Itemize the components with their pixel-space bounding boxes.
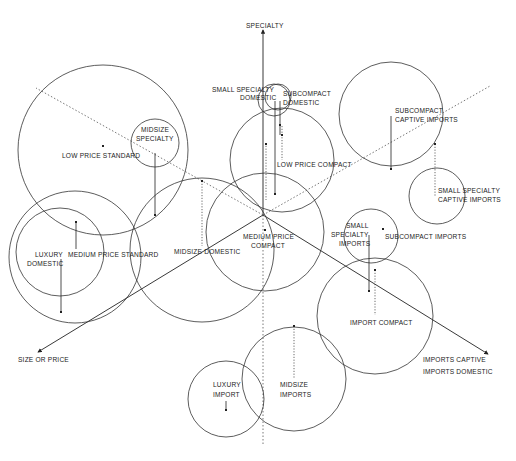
marker-low-price-standard-2: [265, 143, 267, 145]
circle-import-compact: [317, 258, 433, 374]
label-small-specialty-imports-2: SPECIALTY: [331, 231, 369, 238]
label-luxury-import-1: LUXURY: [213, 381, 241, 388]
marker-midsize-specialty: [154, 214, 156, 216]
label-small-specialty-imports-1: SMALL: [346, 222, 369, 229]
axis-label-imports-domestic: IMPORTS DOMESTIC: [423, 368, 493, 375]
axis-label-imports-captive: IMPORTS CAPTIVE: [423, 356, 486, 363]
label-luxury-import-2: IMPORT: [213, 391, 240, 398]
marker-luxury-domestic: [60, 311, 62, 313]
marker-midsize-domestic: [201, 180, 203, 182]
segment-map-diagram: SPECIALTY SIZE OR PRICE IMPORTS CAPTIVE …: [0, 0, 516, 461]
label-small-specialty-imports-3: IMPORTS: [339, 240, 371, 247]
label-low-price-standard: LOW PRICE STANDARD: [62, 152, 140, 159]
axis-label-specialty: SPECIALTY: [246, 22, 284, 29]
label-luxury-domestic-2: DOMESTIC: [27, 260, 63, 267]
label-midsize-specialty-1: MIDSIZE: [141, 126, 170, 133]
marker-low-price-compact: [281, 134, 283, 136]
circle-low-price-standard: [18, 65, 188, 235]
label-midsize-imports-2: IMPORTS: [280, 391, 312, 398]
axis-label-size-or-price: SIZE OR PRICE: [18, 356, 69, 363]
marker-small-specialty-captive-imports: [434, 143, 436, 145]
label-small-specialty-domestic-2: DOMESTIC: [240, 94, 276, 101]
label-small-specialty-captive-imports-2: CAPTIVE IMPORTS: [438, 196, 501, 203]
marker-medium-price-standard: [75, 221, 77, 223]
label-medium-price-standard: MEDIUM PRICE STANDARD: [68, 251, 159, 258]
marker-subcompact-imports: [382, 228, 384, 230]
circle-midsize-imports: [242, 327, 346, 431]
marker-import-compact: [374, 269, 376, 271]
marker-small-specialty-domestic: [274, 193, 276, 195]
label-subcompact-domestic-2: DOMESTIC: [283, 99, 319, 106]
label-small-specialty-domestic-1: SMALL SPECIALTY: [212, 86, 274, 93]
label-midsize-specialty-2: SPECIALTY: [136, 135, 174, 142]
circle-luxury-import: [188, 361, 264, 437]
marker-luxury-import: [225, 409, 227, 411]
marker-low-price-standard: [102, 145, 104, 147]
marker-medium-price-compact: [264, 229, 266, 231]
size-or-price-axis: [38, 215, 263, 352]
marker-subcompact-domestic: [279, 124, 281, 126]
label-low-price-compact: LOW PRICE COMPACT: [277, 161, 352, 168]
label-luxury-domestic-1: LUXURY: [35, 251, 63, 258]
label-medium-price-compact-1: MEDIUM PRICE: [243, 233, 295, 240]
label-subcompact-imports: SUBCOMPACT IMPORTS: [385, 233, 467, 240]
label-medium-price-compact-2: COMPACT: [251, 242, 285, 249]
label-midsize-domestic: MIDSIZE DOMESTIC: [174, 248, 241, 255]
label-midsize-imports-1: MIDSIZE: [280, 381, 309, 388]
label-import-compact: IMPORT COMPACT: [350, 319, 413, 326]
label-subcompact-captive-imports-2: CAPTIVE IMPORTS: [395, 116, 458, 123]
label-subcompact-domestic-1: SUBCOMPACT: [283, 90, 331, 97]
label-small-specialty-captive-imports-1: SMALL SPECIALTY: [438, 187, 500, 194]
label-subcompact-captive-imports-1: SUBCOMPACT: [395, 107, 443, 114]
marker-subcompact-captive-imports: [390, 168, 392, 170]
marker-midsize-imports: [293, 325, 295, 327]
marker-small-specialty-imports: [368, 290, 370, 292]
